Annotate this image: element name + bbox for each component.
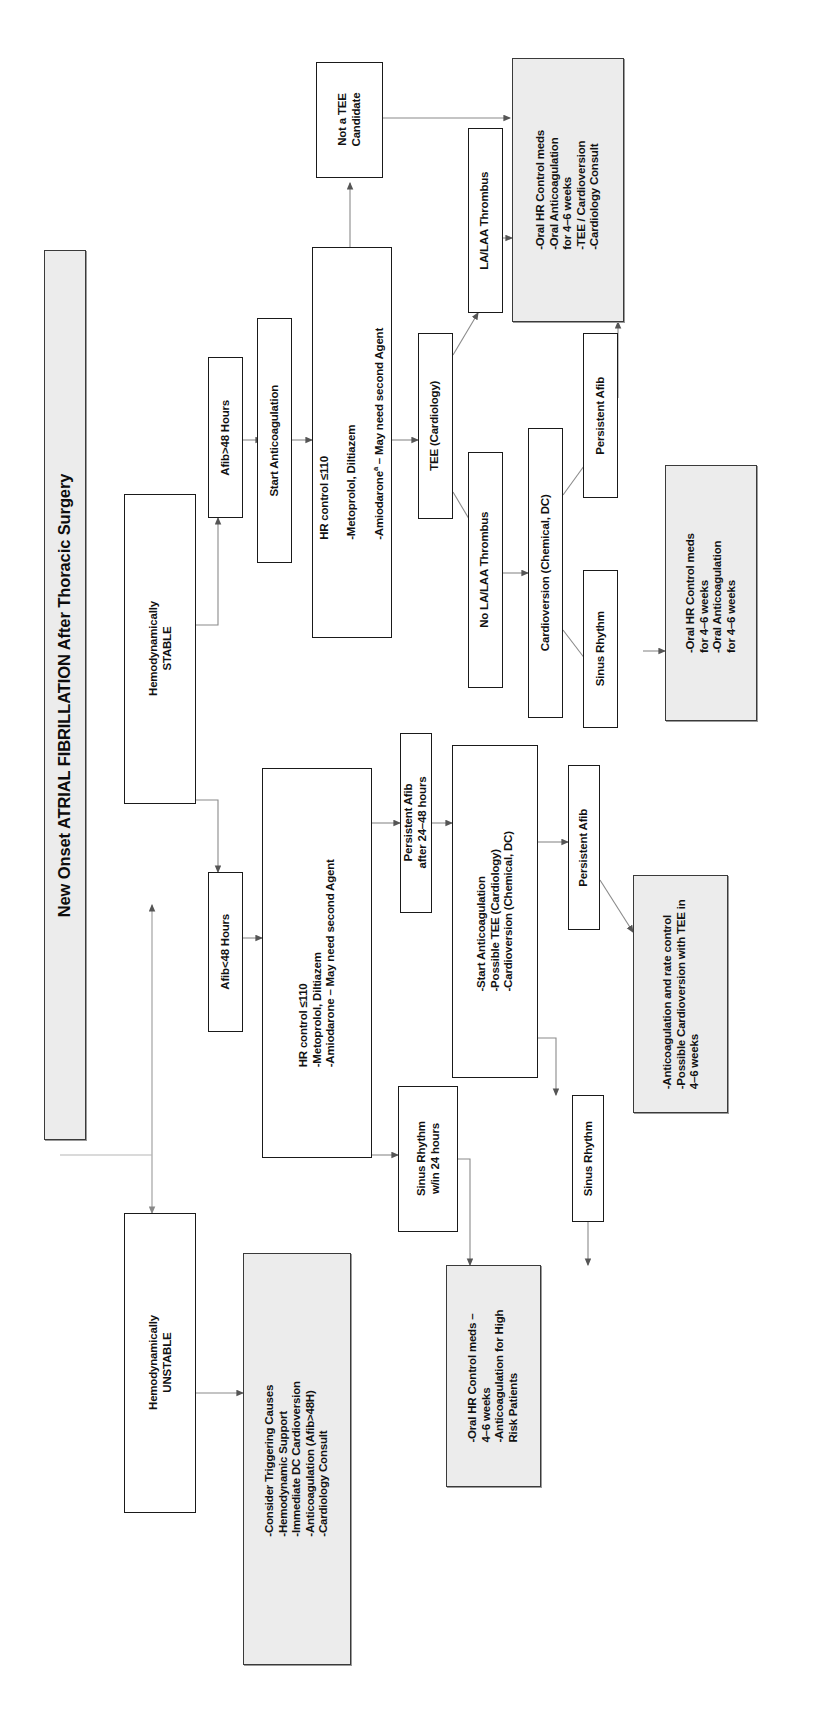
node-label: Afib>48 Hours — [219, 400, 233, 476]
node-label: -Oral HR Control meds -Oral Anticoagulat… — [534, 130, 602, 250]
node-start-anticoagulation[interactable]: Start Anticoagulation — [257, 318, 292, 563]
node-label: Persistent Afib after 24–48 hours — [402, 777, 429, 869]
node-label: -Oral HR Control meds for 4–6 weeks -Ora… — [684, 533, 738, 653]
node-label: Persistent Afib — [577, 809, 591, 887]
node-label: -Oral HR Control meds – 4–6 weeks -Antic… — [466, 1310, 520, 1443]
node-afib-lt-48-hours[interactable]: Afib<48 Hours — [208, 872, 243, 1032]
node-label: No LA/LAA Thrombus — [479, 512, 493, 628]
node-label: HR control ≤110 -Metoprolol, Diltiazem -… — [312, 328, 392, 558]
node-hemodynamically-stable[interactable]: Hemodynamically STABLE — [124, 494, 196, 804]
page-title-text: New Onset ATRIAL FIBRILLATION After Thor… — [56, 473, 75, 917]
node-label: Sinus Rhythm — [581, 1121, 595, 1196]
node-cardioversion-upper[interactable]: Cardioversion (Chemical, DC) — [528, 428, 563, 718]
node-sinus-rhythm-within-24-hours[interactable]: Sinus Rhythm w/in 24 hours — [398, 1086, 458, 1232]
hr-control-line-1: HR control ≤110 — [318, 456, 330, 540]
node-outcome-thrombus[interactable]: -Oral HR Control meds -Oral Anticoagulat… — [512, 58, 624, 322]
node-label: Not a TEE Candidate — [336, 93, 363, 147]
page-title: New Onset ATRIAL FIBRILLATION After Thor… — [44, 250, 86, 1140]
node-label: Cardioversion (Chemical, DC) — [539, 495, 553, 652]
node-hr-control-lower[interactable]: HR control ≤110 -Metoprolol, Diltiazem -… — [262, 768, 372, 1158]
node-la-laa-thrombus[interactable]: LA/LAA Thrombus — [468, 128, 503, 313]
node-no-la-laa-thrombus[interactable]: No LA/LAA Thrombus — [468, 452, 503, 688]
node-label: Start Anticoagulation — [268, 385, 282, 497]
node-hemodynamically-unstable[interactable]: Hemodynamically UNSTABLE — [124, 1213, 196, 1513]
node-persistent-afib-lower[interactable]: Persistent Afib — [568, 765, 600, 930]
node-outcome-sinus-upper[interactable]: -Oral HR Control meds for 4–6 weeks -Ora… — [665, 465, 757, 721]
node-label: -Anticoagulation and rate control -Possi… — [660, 899, 701, 1089]
flowchart-page: New Onset ATRIAL FIBRILLATION After Thor… — [0, 0, 838, 1728]
amiodarone-footnote-marker: a — [371, 467, 380, 471]
node-label: Sinus Rhythm w/in 24 hours — [414, 1122, 441, 1197]
hr-control-line-3a: -Amiodarone — [373, 471, 385, 540]
node-persistent-afib-24-48[interactable]: Persistent Afib after 24–48 hours — [400, 733, 432, 913]
node-label: Sinus Rhythm — [594, 612, 608, 687]
node-label: Persistent Afib — [594, 377, 608, 455]
node-start-ac-tee-cardioversion[interactable]: -Start Anticoagulation -Possible TEE (Ca… — [452, 745, 538, 1078]
node-not-a-tee-candidate[interactable]: Not a TEE Candidate — [316, 62, 383, 178]
node-label: TEE (Cardiology) — [429, 381, 443, 471]
node-outcome-sinus-lower[interactable]: -Oral HR Control meds – 4–6 weeks -Antic… — [446, 1265, 541, 1487]
node-label: HR control ≤110 -Metoprolol, Diltiazem -… — [297, 859, 338, 1067]
node-label: -Consider Triggering Causes -Hemodynamic… — [263, 1381, 331, 1537]
node-unstable-treatment[interactable]: -Consider Triggering Causes -Hemodynamic… — [243, 1253, 351, 1665]
node-label: Hemodynamically UNSTABLE — [146, 1316, 173, 1411]
node-afib-gt-48-hours[interactable]: Afib>48 Hours — [208, 357, 243, 518]
node-sinus-rhythm-upper[interactable]: Sinus Rhythm — [583, 570, 618, 728]
node-outcome-persistent-lower[interactable]: -Anticoagulation and rate control -Possi… — [633, 875, 728, 1113]
node-label: Hemodynamically STABLE — [146, 602, 173, 697]
hr-control-line-3b: – May need second Agent — [373, 328, 385, 467]
node-persistent-afib-upper[interactable]: Persistent Afib — [583, 333, 618, 498]
node-label: Afib<48 Hours — [219, 914, 233, 990]
node-label: -Start Anticoagulation -Possible TEE (Ca… — [475, 831, 516, 991]
hr-control-line-2: -Metoprolol, Diltiazem — [345, 424, 357, 539]
node-hr-control-upper[interactable]: HR control ≤110 -Metoprolol, Diltiazem -… — [312, 247, 392, 638]
node-label: LA/LAA Thrombus — [479, 171, 493, 269]
node-tee-cardiology[interactable]: TEE (Cardiology) — [418, 333, 453, 519]
node-sinus-rhythm-lower[interactable]: Sinus Rhythm — [572, 1095, 604, 1222]
